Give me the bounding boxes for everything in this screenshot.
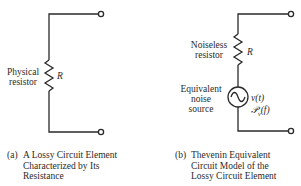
terminal-bottom-a bbox=[98, 129, 103, 134]
noiseless-resistor-label: Noiseless resistor bbox=[188, 40, 230, 60]
resistor-symbol-a: R bbox=[57, 71, 63, 81]
caption-tag-b: (b) bbox=[175, 150, 186, 161]
resistor-symbol-b: R bbox=[247, 47, 253, 57]
sine-wave-icon bbox=[231, 93, 245, 102]
wire-top-a bbox=[49, 14, 98, 60]
equivalent-noise-source-label: Equivalent noise source bbox=[176, 84, 226, 114]
caption-tag-a: (a) bbox=[7, 150, 18, 161]
terminal-bottom-b bbox=[288, 128, 293, 133]
terminal-top-b bbox=[288, 11, 293, 16]
physical-resistor-label: Physical resistor bbox=[4, 67, 42, 87]
wire-top-b bbox=[238, 14, 288, 34]
resistor-a-zigzag bbox=[45, 60, 53, 91]
source-psd-label: 𝒫v(f) bbox=[251, 105, 270, 119]
wire-bottom-a bbox=[49, 91, 98, 132]
panel-a-circuit bbox=[45, 11, 104, 134]
resistor-b-zigzag bbox=[234, 34, 242, 65]
source-voltage-label: v(t) bbox=[251, 93, 264, 103]
terminal-top-a bbox=[98, 11, 103, 16]
